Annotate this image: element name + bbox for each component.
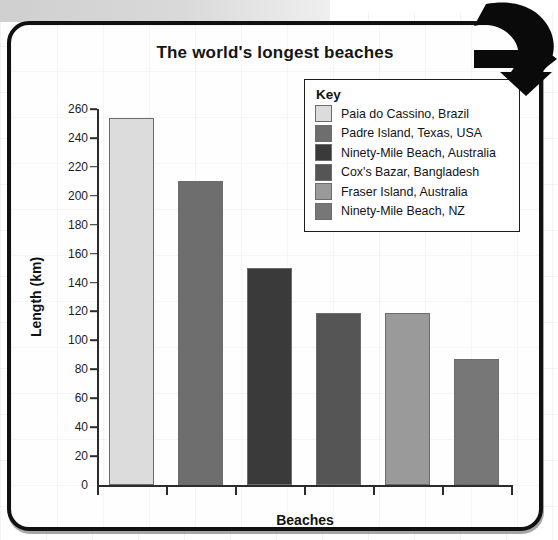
- y-axis-tick-mark: [90, 369, 97, 371]
- legend-title: Key: [316, 87, 510, 102]
- scanned-page: The world's longest beaches Length (km) …: [0, 0, 558, 540]
- legend-color-swatch: [315, 203, 332, 220]
- bar-4: [316, 313, 361, 485]
- legend-item: Padre Island, Texas, USA: [315, 125, 510, 142]
- y-axis-tick-label: 0: [81, 478, 97, 492]
- x-axis-tick-mark: [97, 487, 99, 495]
- chart-title: The world's longest beaches: [11, 43, 539, 63]
- x-axis-label: Beaches: [97, 512, 513, 528]
- legend-color-swatch: [315, 164, 332, 181]
- legend-item: Fraser Island, Australia: [315, 183, 510, 200]
- legend-item-label: Cox's Bazar, Bangladesh: [341, 165, 479, 179]
- bar-5: [385, 313, 430, 485]
- y-axis-tick-mark: [90, 340, 97, 342]
- y-axis-label-text: Length (km): [28, 257, 44, 337]
- cutoff-text-above: [372, 0, 492, 7]
- bar-1: [109, 118, 154, 485]
- y-axis-tick-mark: [90, 397, 97, 399]
- legend-item: Ninety-Mile Beach, Australia: [315, 144, 510, 161]
- scan-edge-shadow-left: [0, 0, 330, 22]
- x-axis-tick-mark: [373, 487, 375, 495]
- y-axis-tick-mark: [90, 282, 97, 284]
- x-axis-tick-mark: [235, 487, 237, 495]
- legend-item-label: Padre Island, Texas, USA: [341, 126, 482, 140]
- y-axis-label: Length (km): [25, 109, 47, 485]
- y-axis-tick-mark: [90, 108, 97, 110]
- legend-item: Cox's Bazar, Bangladesh: [315, 164, 510, 181]
- legend-color-swatch: [315, 105, 332, 122]
- legend-item-label: Fraser Island, Australia: [341, 185, 468, 199]
- x-axis-tick-mark: [442, 487, 444, 495]
- legend-color-swatch: [315, 144, 332, 161]
- legend-item-label: Ninety-Mile Beach, Australia: [341, 146, 496, 160]
- bar-6: [454, 359, 499, 485]
- y-axis-tick-mark: [90, 311, 97, 313]
- y-axis-tick-mark: [90, 426, 97, 428]
- legend-items: Paia do Cassino, BrazilPadre Island, Tex…: [315, 105, 510, 220]
- y-axis-tick-mark: [90, 224, 97, 226]
- legend-item-label: Ninety-Mile Beach, NZ: [341, 204, 465, 218]
- x-axis-tick-mark: [166, 487, 168, 495]
- x-axis-tick-mark: [304, 487, 306, 495]
- bar-2: [178, 181, 223, 485]
- y-axis-tick-mark: [90, 137, 97, 139]
- y-axis-tick-mark: [90, 455, 97, 457]
- x-axis-tick-mark: [511, 487, 513, 495]
- bar-3: [247, 268, 292, 485]
- y-axis-tick-mark: [90, 253, 97, 255]
- y-axis-tick-mark: [90, 166, 97, 168]
- legend-key-box: Key Paia do Cassino, BrazilPadre Island,…: [304, 79, 520, 232]
- legend-item: Paia do Cassino, Brazil: [315, 105, 510, 122]
- legend-item-label: Paia do Cassino, Brazil: [341, 107, 469, 121]
- y-axis-tick-mark: [90, 195, 97, 197]
- legend-color-swatch: [315, 183, 332, 200]
- chart-frame: The world's longest beaches Length (km) …: [7, 21, 543, 531]
- legend-color-swatch: [315, 125, 332, 142]
- legend-item: Ninety-Mile Beach, NZ: [315, 203, 510, 220]
